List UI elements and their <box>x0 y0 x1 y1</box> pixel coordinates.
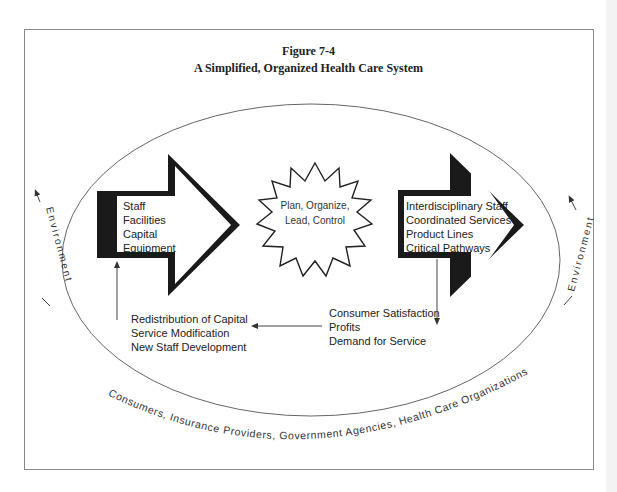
environment-left-indicator: Environment <box>36 192 75 306</box>
inputs-item: Capital <box>123 227 176 241</box>
outcomes-item: Demand for Service <box>329 334 440 348</box>
feedback-item: Redistribution of Capital <box>131 312 248 326</box>
inputs-list: Staff Facilities Capital Equipment <box>123 199 176 255</box>
inputs-item: Staff <box>123 199 176 213</box>
process-label: Plan, Organize, Lead, Control <box>270 198 360 228</box>
feedback-list: Redistribution of Capital Service Modifi… <box>131 312 248 354</box>
feedback-item: New Staff Development <box>131 340 248 354</box>
outputs-item: Interdisciplinary Staff <box>406 199 511 213</box>
environment-right-indicator: Environment <box>564 198 596 305</box>
outputs-item: Product Lines <box>406 227 511 241</box>
outputs-item: Coordinated Services <box>406 213 511 227</box>
feedback-item: Service Modification <box>131 326 248 340</box>
outcomes-item: Consumer Satisfaction <box>329 306 440 320</box>
svg-text:Environment: Environment <box>565 214 596 292</box>
inputs-item: Facilities <box>123 213 176 227</box>
svg-text:Environment: Environment <box>44 206 75 284</box>
outcomes-list: Consumer Satisfaction Profits Demand for… <box>329 306 440 348</box>
diagram-canvas: Environment Environment Consumers, Insur… <box>0 0 617 492</box>
outputs-list: Interdisciplinary Staff Coordinated Serv… <box>406 199 511 255</box>
stakeholders-label: Consumers, Insurance Providers, Governme… <box>107 365 530 442</box>
outcomes-item: Profits <box>329 320 440 334</box>
outputs-item: Critical Pathways <box>406 241 511 255</box>
inputs-item: Equipment <box>123 241 176 255</box>
